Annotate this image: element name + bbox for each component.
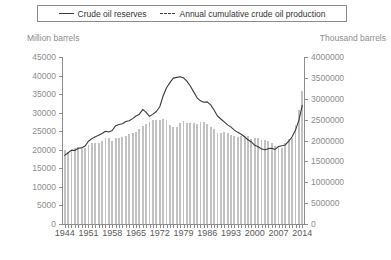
tick-mark [305,78,308,79]
tick-label-40000: 40000 [32,71,56,80]
legend-item-reserves: Crude oil reserves [59,9,147,19]
legend-item-production: Annual cumulative crude oil production [160,9,325,19]
tick-mark [305,203,308,204]
x-axis-label-1965: 1965 [126,228,146,238]
tick-mark [305,224,308,225]
x-tick-2003 [265,225,266,228]
crude-oil-chart: Crude oil reserves Annual cumulative cru… [0,0,391,260]
chart-legend: Crude oil reserves Annual cumulative cru… [37,5,347,22]
tick-label-1500000: 1500000 [311,157,344,166]
line-solid-icon [59,13,74,14]
legend-label-production: Annual cumulative crude oil production [179,9,325,19]
x-tick-1954 [99,225,100,228]
tick-mark [59,224,62,225]
tick-label-3500000: 3500000 [311,74,344,83]
tick-mark [59,187,62,188]
x-tick-1989 [217,225,218,228]
tick-mark [59,57,62,58]
x-axis-label-1944: 1944 [55,228,75,238]
plot-surface [63,57,304,224]
x-axis-label-1993: 1993 [221,228,241,238]
tick-mark [305,57,308,58]
x-axis-label-2000: 2000 [245,228,265,238]
tick-mark [59,76,62,77]
tick-label-0: 0 [51,220,56,229]
tick-mark [305,99,308,100]
tick-label-1000000: 1000000 [311,178,344,187]
x-tick-1968 [146,225,147,228]
tick-mark [305,161,308,162]
x-tick-1947 [75,225,76,228]
legend-label-reserves: Crude oil reserves [78,9,147,19]
x-axis-label-1986: 1986 [197,228,217,238]
x-axis-label-2007: 2007 [269,228,289,238]
tick-mark [305,182,308,183]
tick-label-35000: 35000 [32,90,56,99]
tick-label-500000: 500000 [311,199,339,208]
tick-label-20000: 20000 [32,146,56,155]
x-axis-label-1951: 1951 [78,228,98,238]
tick-label-45000: 45000 [32,53,56,62]
tick-label-5000: 5000 [37,201,56,210]
left-axis-unit-label: Million barrels [27,33,79,43]
tick-mark [59,150,62,151]
tick-mark [305,120,308,121]
x-axis-label-1958: 1958 [102,228,122,238]
tick-mark [305,141,308,142]
line-dashed-icon [160,13,175,14]
x-tick-1975 [170,225,171,228]
tick-label-0: 0 [311,220,316,229]
tick-label-10000: 10000 [32,183,56,192]
plot-area: 0500010000150002000025000300003500040000… [63,57,304,224]
right-axis-unit-label: Thousand barrels [320,33,386,43]
tick-label-2000000: 2000000 [311,136,344,145]
tick-mark [59,168,62,169]
tick-label-2500000: 2500000 [311,115,344,124]
x-tick-1996 [241,225,242,228]
tick-label-4000000: 4000000 [311,53,344,62]
tick-label-15000: 15000 [32,164,56,173]
x-tick-1982 [194,225,195,228]
tick-mark [59,131,62,132]
reserves-line [65,77,303,156]
tick-label-3000000: 3000000 [311,95,344,104]
tick-label-30000: 30000 [32,108,56,117]
tick-mark [59,113,62,114]
tick-label-25000: 25000 [32,127,56,136]
x-tick-2010 [289,225,290,228]
x-tick-1961 [122,225,123,228]
reserves-line-layer [63,57,304,224]
x-axis-label-1972: 1972 [150,228,170,238]
x-axis-label-2014: 2014 [292,228,312,238]
tick-mark [59,94,62,95]
x-axis-label-1979: 1979 [173,228,193,238]
tick-mark [59,205,62,206]
